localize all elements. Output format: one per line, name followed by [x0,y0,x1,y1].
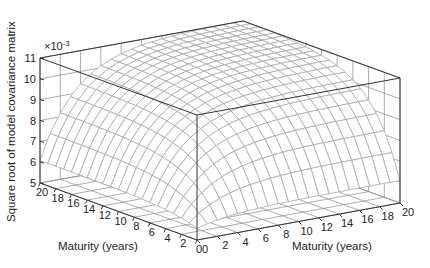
tick-label: 10 [114,215,126,227]
tick-label: 2 [222,239,228,251]
tick-label: 20 [402,206,414,218]
tick-label: 0 [202,243,208,255]
surface-mesh [40,21,400,229]
tick-label: 4 [165,232,171,244]
z-multiplier-label: ×10-3 [44,39,70,52]
tick-label: 6 [30,156,36,168]
tick-label: 2 [180,237,186,249]
tick-label: 14 [83,203,95,215]
tick-label: 7 [30,135,36,147]
tick-label: 16 [67,197,79,209]
z-axis-ticks: 567891011 [24,52,44,189]
tick-label: 9 [30,94,36,106]
tick-label: 18 [382,210,394,222]
tick-label: 11 [25,52,36,64]
z-axis-label: Square root of model covariance matrix [5,21,17,222]
tick-label: 18 [52,192,64,204]
tick-label: 6 [149,226,155,238]
tick-label: 10 [300,225,312,237]
tick-label: 8 [30,115,36,127]
tick-label: 16 [361,213,373,225]
tick-label: 14 [341,217,353,229]
tick-label: 8 [283,228,289,240]
tick-label: 8 [133,220,139,232]
tick-label: 6 [263,232,269,244]
tick-label: 10 [24,73,36,85]
right-y-axis-label: Maturity (years) [292,240,372,252]
tick-label: 4 [243,236,249,248]
tick-label: 12 [99,209,111,221]
tick-label: 20 [36,186,48,198]
tick-label: 12 [321,221,333,233]
left-x-axis-label: Maturity (years) [58,240,138,252]
surface-chart: 567891011 02468101214161820 024681012141… [0,0,430,268]
